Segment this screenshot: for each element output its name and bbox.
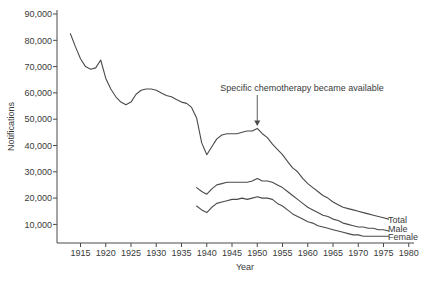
- chart-generated-layer: 10,00020,00030,00040,00050,00060,00070,0…: [24, 9, 418, 257]
- x-tick-label: 1965: [323, 248, 343, 258]
- x-tick-label: 1940: [197, 248, 217, 258]
- tb-notifications-figure: 10,00020,00030,00040,00050,00060,00070,0…: [0, 0, 431, 286]
- series-label-female: Female: [388, 232, 418, 242]
- x-tick-label: 1950: [247, 248, 267, 258]
- x-tick-label: 1975: [373, 248, 393, 258]
- x-tick-label: 1970: [348, 248, 368, 258]
- x-tick-label: 1935: [171, 248, 191, 258]
- x-tick-label: 1925: [121, 248, 141, 258]
- x-axis-title: Year: [236, 262, 254, 272]
- y-tick-label: 60,000: [24, 88, 52, 98]
- y-tick-label: 50,000: [24, 114, 52, 124]
- y-tick-label: 80,000: [24, 36, 52, 46]
- series-line-male: [197, 178, 389, 231]
- y-tick-label: 10,000: [24, 220, 52, 230]
- x-tick-label: 1980: [399, 248, 419, 258]
- x-tick-label: 1960: [298, 248, 318, 258]
- x-tick-label: 1920: [96, 248, 116, 258]
- x-tick-label: 1915: [70, 248, 90, 258]
- y-tick-label: 30,000: [24, 167, 52, 177]
- x-tick-label: 1945: [222, 248, 242, 258]
- x-tick-label: 1955: [272, 248, 292, 258]
- y-tick-label: 90,000: [24, 9, 52, 19]
- series-line-total: [70, 34, 388, 219]
- line-chart: 10,00020,00030,00040,00050,00060,00070,0…: [0, 0, 431, 286]
- annotation-text: Specific chemotherapy became available: [220, 83, 384, 93]
- y-axis-title: Notifications: [6, 101, 16, 151]
- y-tick-label: 20,000: [24, 193, 52, 203]
- y-tick-label: 40,000: [24, 141, 52, 151]
- series-line-female: [197, 197, 389, 236]
- x-tick-label: 1930: [146, 248, 166, 258]
- annotation-arrowhead: [254, 120, 260, 126]
- y-tick-label: 70,000: [24, 62, 52, 72]
